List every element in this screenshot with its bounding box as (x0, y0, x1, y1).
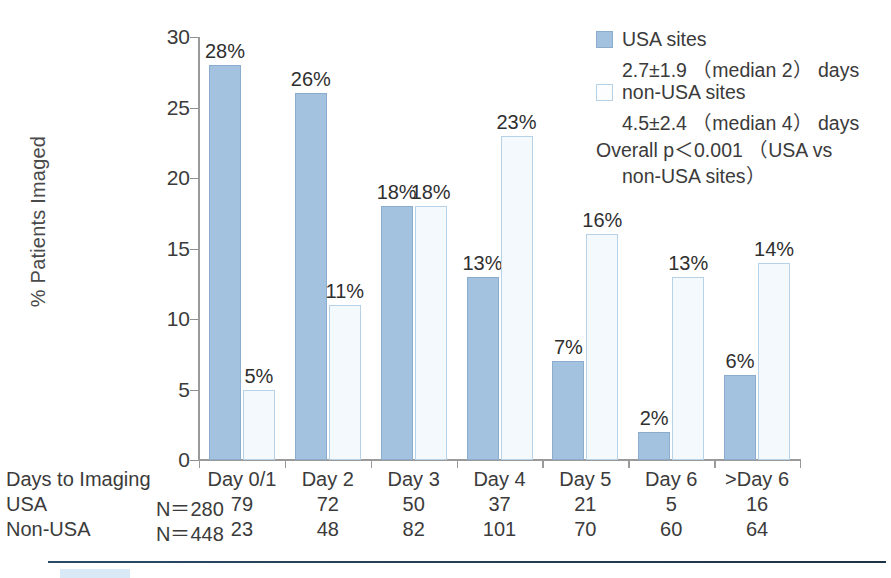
bar-usa[interactable] (381, 206, 413, 460)
bar-usa[interactable] (295, 93, 327, 460)
table-cell-day: Day 4 (455, 468, 545, 491)
table-row: Days to Imaging Day 0/1Day 2Day 3Day 4Da… (6, 468, 886, 493)
table-cell-usa-count: 79 (197, 493, 287, 516)
y-axis-tick-mark (190, 390, 198, 391)
table-cell-day: Day 5 (540, 468, 630, 491)
bar-usa[interactable] (724, 375, 756, 460)
table-cell-usa-count: 72 (283, 493, 373, 516)
table-row-label-nonusa: Non-USA (6, 518, 90, 541)
table-cell-usa-count: 5 (626, 493, 716, 516)
x-axis-tick-mark (628, 459, 629, 468)
legend-swatch-nonusa-icon (596, 84, 613, 101)
y-axis-tick-mark (190, 460, 198, 461)
x-axis-tick-mark (714, 459, 715, 468)
bar-usa[interactable] (467, 277, 499, 460)
table-cell-day: >Day 6 (712, 468, 802, 491)
x-axis-tick-mark (542, 459, 543, 468)
y-axis-tick-label: 15 (146, 238, 190, 259)
table-cell-day: Day 3 (369, 468, 459, 491)
table-cell-nonusa-count: 101 (455, 518, 545, 541)
bar-usa[interactable] (638, 432, 670, 460)
legend-entry-nonusa: non-USA sites (596, 81, 891, 106)
bar-nonusa[interactable] (586, 234, 618, 460)
legend-pvalue-line1: Overall p＜0.001 （USA vs (596, 134, 891, 160)
y-axis-title: % Patients Imaged (27, 92, 50, 352)
table-cell-day: Day 2 (283, 468, 373, 491)
table-cell-day: Day 0/1 (197, 468, 287, 491)
table-row-label-days: Days to Imaging (6, 468, 151, 491)
bar-nonusa[interactable] (672, 277, 704, 460)
table-cell-day: Day 6 (626, 468, 716, 491)
bar-nonusa[interactable] (758, 263, 790, 460)
legend-swatch-usa-icon (596, 31, 613, 48)
table-row-label-usa: USA (6, 493, 47, 516)
table-cell-nonusa-count: 82 (369, 518, 459, 541)
bar-usa[interactable] (552, 361, 584, 460)
bar-value-label: 26% (285, 69, 337, 89)
footer-divider (48, 561, 886, 563)
table-cell-usa-count: 50 (369, 493, 459, 516)
bar-value-label: 14% (748, 239, 800, 259)
y-axis-tick-mark (190, 178, 198, 179)
x-axis-tick-mark (457, 459, 458, 468)
legend-pvalue-line2: non-USA sites） (596, 160, 891, 186)
table-cell-nonusa-count: 23 (197, 518, 287, 541)
y-axis-tick-label: 10 (146, 308, 190, 329)
bar-value-label: 28% (199, 41, 251, 61)
bar-value-label: 11% (319, 281, 371, 301)
data-table: Days to Imaging Day 0/1Day 2Day 3Day 4Da… (6, 468, 886, 543)
table-cell-nonusa-count: 48 (283, 518, 373, 541)
table-cell-nonusa-count: 60 (626, 518, 716, 541)
y-axis-tick-label: 30 (146, 26, 190, 47)
table-cell-nonusa-count: 64 (712, 518, 802, 541)
table-cell-nonusa-count: 70 (540, 518, 630, 541)
table-row: Non-USA N＝448 234882101706064 (6, 518, 886, 543)
y-axis-tick-mark (190, 319, 198, 320)
bar-value-label: 16% (576, 210, 628, 230)
bar-nonusa[interactable] (415, 206, 447, 460)
legend-label-nonusa: non-USA sites (622, 81, 746, 104)
bar-value-label: 23% (491, 112, 543, 132)
x-axis-tick-mark (371, 459, 372, 468)
bar-value-label: 13% (662, 253, 714, 273)
bar-nonusa[interactable] (501, 136, 533, 460)
y-axis-tick-label: 0 (146, 449, 190, 470)
table-cell-usa-count: 16 (712, 493, 802, 516)
bar-usa[interactable] (209, 65, 241, 460)
y-axis-tick-mark (190, 108, 198, 109)
legend-stats-nonusa: 4.5±2.4 （median 4） days (596, 107, 891, 134)
bar-group: 13%23% (467, 37, 533, 460)
y-axis-tick-mark (190, 37, 198, 38)
x-axis-tick-mark (199, 459, 200, 468)
legend-entry-usa: USA sites (596, 28, 891, 53)
bar-group: 28%5% (209, 37, 275, 460)
bar-group: 18%18% (381, 37, 447, 460)
legend-label-usa: USA sites (622, 28, 707, 51)
y-axis-tick-label: 20 (146, 167, 190, 188)
bar-value-label: 5% (233, 366, 285, 386)
table-cell-usa-count: 37 (455, 493, 545, 516)
table-cell-usa-count: 21 (540, 493, 630, 516)
bar-value-label: 18% (405, 182, 457, 202)
legend-stats-usa: 2.7±1.9 （median 2） days (596, 54, 891, 81)
legend: USA sites 2.7±1.9 （median 2） days non-US… (596, 28, 891, 186)
y-axis-tick-label: 5 (146, 379, 190, 400)
y-axis-tick-label: 25 (146, 97, 190, 118)
bar-nonusa[interactable] (243, 390, 275, 461)
x-axis-tick-mark (800, 459, 801, 468)
bar-nonusa[interactable] (329, 305, 361, 460)
bar-group: 26%11% (295, 37, 361, 460)
x-axis-tick-mark (285, 459, 286, 468)
table-row: USA N＝280 7972503721516 (6, 493, 886, 518)
footer-marker (60, 569, 130, 578)
y-axis-tick-mark (190, 249, 198, 250)
y-axis-tick-labels: 302520151050 (144, 0, 190, 470)
